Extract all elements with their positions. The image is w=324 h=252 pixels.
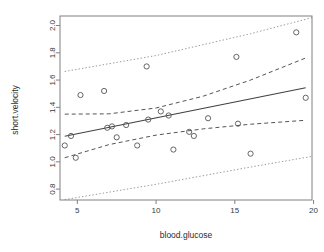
- chart-background: [0, 0, 324, 252]
- scatter-chart: 5101520 0.81.01.21.41.61.82.0 blood.gluc…: [0, 0, 324, 252]
- x-axis-title: blood.glucose: [160, 230, 213, 240]
- y-tick-label: 2.0: [48, 19, 57, 31]
- y-tick-label: 0.8: [48, 183, 57, 195]
- y-tick-label: 1.0: [48, 156, 57, 168]
- x-tick-label: 5: [75, 206, 80, 215]
- y-tick-label: 1.6: [48, 74, 57, 86]
- y-axis-title: short.velocity: [10, 84, 20, 134]
- x-tick-label: 10: [152, 206, 161, 215]
- y-tick-label: 1.2: [48, 128, 57, 140]
- x-tick-label: 15: [230, 206, 239, 215]
- plot-root: 5101520 0.81.01.21.41.61.82.0 blood.gluc…: [0, 0, 324, 252]
- x-tick-label: 20: [309, 206, 318, 215]
- y-tick-label: 1.4: [48, 101, 57, 113]
- y-tick-label: 1.8: [48, 47, 57, 59]
